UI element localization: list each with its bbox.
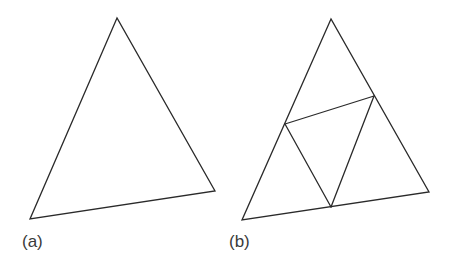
- inner-edge-top: [285, 96, 374, 124]
- triangle-a: [30, 18, 215, 219]
- panel-a: (a): [22, 18, 215, 251]
- panel-b: (b): [229, 19, 429, 251]
- panel-b-label: (b): [229, 232, 250, 251]
- inner-edge-left: [285, 124, 331, 207]
- panel-a-label: (a): [22, 232, 43, 251]
- inner-edge-right: [331, 96, 374, 207]
- figure-canvas: (a) (b): [0, 0, 454, 271]
- triangle-b-outer: [242, 19, 429, 220]
